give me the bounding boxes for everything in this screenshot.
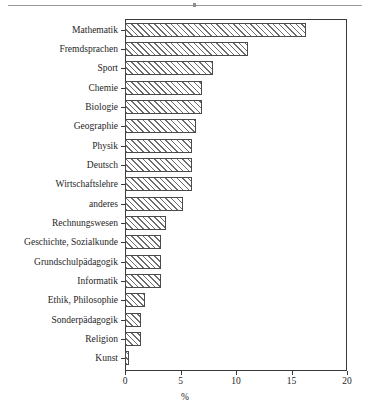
x-axis-tick [125,371,126,375]
bar [125,332,141,346]
x-axis-tick [181,371,182,375]
category-label-15: Ethik, Philosophie [48,293,118,307]
bar [125,177,192,191]
category-label-3: Sport [97,61,118,75]
y-axis-tick [121,320,125,321]
x-tick-label-10: 10 [221,376,251,387]
bar [125,119,196,133]
x-tick-label-0: 0 [110,376,140,387]
category-label-17: Religion [85,332,118,346]
x-axis-title: % [0,392,370,402]
bar [125,42,248,56]
bar [125,197,183,211]
x-tick-label-5: 5 [166,376,196,387]
y-axis-tick [121,88,125,89]
bar [125,100,202,114]
category-label-16: Sonderpädagogik [52,313,119,327]
bar [125,216,166,230]
bar [125,235,161,249]
x-axis-tick [347,371,348,375]
x-tick-label-20: 20 [332,376,362,387]
y-axis-tick [121,184,125,185]
category-label-8: Deutsch [87,158,118,172]
y-axis-tick [121,204,125,205]
category-label-6: Geographie [74,119,118,133]
category-label-10: anderes [89,197,118,211]
category-label-11: Rechnungswesen [52,216,118,230]
bar-chart-figure: MathematikFremdsprachenSportChemieBiolog… [0,0,370,419]
category-label-5: Biologie [85,100,118,114]
category-label-14: Informatik [77,274,118,288]
y-axis-tick [121,262,125,263]
x-axis-tick [236,371,237,375]
x-axis-tick [292,371,293,375]
bar [125,158,192,172]
bar [125,274,161,288]
category-label-12: Geschichte, Sozialkunde [24,235,118,249]
y-axis-tick [121,242,125,243]
x-tick-label-15: 15 [277,376,307,387]
category-label-2: Fremdsprachen [59,42,118,56]
y-axis-tick [121,300,125,301]
bar [125,255,161,269]
y-axis-tick [121,107,125,108]
bar [125,139,192,153]
plot-frame-top [125,19,347,20]
y-axis-tick [121,49,125,50]
bar [125,81,202,95]
bar [125,23,306,37]
bar [125,313,141,327]
y-axis-tick [121,223,125,224]
category-label-9: Wirtschaftslehre [56,177,118,191]
category-label-1: Mathematik [72,23,118,37]
y-axis-tick [121,339,125,340]
y-axis-tick [121,126,125,127]
plot-frame-right [346,19,347,371]
category-label-13: Grundschulpädagogik [34,255,118,269]
bar [125,351,129,365]
y-axis-tick [121,68,125,69]
y-axis-tick [121,165,125,166]
y-axis-tick [121,30,125,31]
bar [125,61,213,75]
y-axis-tick [121,358,125,359]
bar [125,293,145,307]
category-label-4: Chemie [88,81,118,95]
y-axis-tick [121,146,125,147]
category-label-7: Physik [92,139,118,153]
category-label-18: Kunst [95,351,118,365]
plot-area [125,19,347,371]
y-axis-tick [121,281,125,282]
